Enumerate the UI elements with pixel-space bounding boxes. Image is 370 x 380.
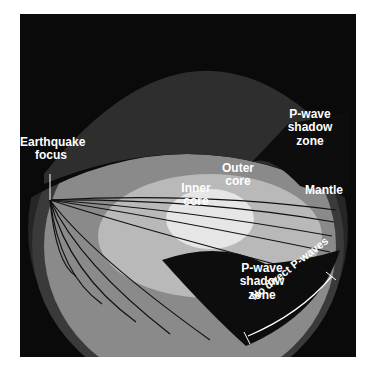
label-mantle: Mantle [296,184,352,197]
label-inner-core-line1: Inner [174,182,218,195]
label-shadow-top-line3: zone [276,135,344,148]
label-focus-line1: Earthquake [20,136,82,149]
label-outer-core: Outer core [216,162,260,189]
label-inner-core: Inner core [174,182,218,209]
label-inner-core-line2: core [174,195,218,208]
label-shadow-top: P-wave shadow zone [276,108,344,148]
diagram-frame: Earthquake focus P-wave shadow zone Oute… [20,14,356,357]
label-focus-line2: focus [20,149,82,162]
label-shadow-top-line1: P-wave [276,108,344,121]
label-earthquake-focus: Earthquake focus [20,136,82,163]
label-outer-core-line2: core [216,175,260,188]
label-outer-core-line1: Outer [216,162,260,175]
label-shadow-top-line2: shadow [276,121,344,134]
